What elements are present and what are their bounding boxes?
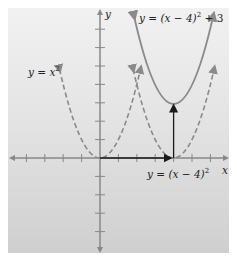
y-axis-label: y [104,8,112,20]
label-y-equals-x-minus-4-squared-plus-3: y = (x − 4)2 + 3 [138,11,223,24]
label-y-equals-x-squared: y = x2 [27,65,60,78]
label-y-equals-x-minus-4-squared: y = (x − 4)2 [146,167,209,180]
parabola-translation-graph: x y y = x2 y = (x − 4)2 y = (x − 4)2 + [0,0,237,259]
y-axis: y [95,8,112,250]
x-axis-label: x [222,164,228,176]
curve-y-equals-x-minus-4-squared-plus-3 [134,16,213,104]
